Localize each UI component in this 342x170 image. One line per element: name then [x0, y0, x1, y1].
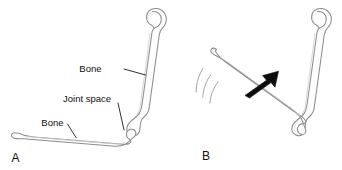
leader-line-bone-upper — [124, 69, 146, 75]
leader-line-joint-space — [118, 103, 124, 130]
motion-arcs — [196, 69, 218, 104]
motion-arrow — [245, 71, 279, 98]
panel-letter-a: A — [12, 151, 20, 165]
joint-diagram-svg: Bone Joint space Bone A — [0, 0, 342, 170]
panel-a-upper-bone — [127, 9, 167, 136]
panel-a: Bone Joint space Bone A — [12, 9, 167, 165]
panel-letter-b: B — [202, 149, 210, 163]
motion-arc-2 — [203, 75, 211, 97]
motion-arc-1 — [196, 69, 203, 93]
panel-b-upper-bone — [292, 9, 332, 136]
motion-arc-3 — [210, 82, 218, 103]
motion-arrow-shape — [245, 71, 279, 98]
upper-bone-outline — [127, 9, 167, 136]
label-bone-lower: Bone — [41, 117, 63, 128]
label-bone-upper: Bone — [79, 63, 101, 74]
label-joint-space: Joint space — [63, 93, 111, 104]
panel-b: B — [196, 9, 331, 163]
leader-line-bone-lower — [68, 124, 77, 138]
anatomy-figure: Bone Joint space Bone A — [0, 0, 342, 170]
panel-b-upper-bone-outline — [292, 9, 332, 136]
panel-a-lower-bone — [12, 129, 136, 146]
